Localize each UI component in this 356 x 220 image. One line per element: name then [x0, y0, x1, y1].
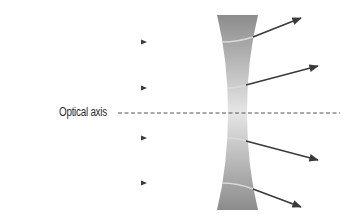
light-ray-2 [18, 66, 318, 91]
light-ray-3 [18, 136, 318, 161]
ray-arrowhead-icon [141, 136, 147, 141]
concave-lens-diagram [0, 0, 356, 220]
light-ray-1 [18, 18, 301, 45]
optical-axis-label: Optical axis [59, 104, 107, 120]
ray-arrowhead-icon [141, 86, 147, 91]
light-ray-4 [18, 181, 301, 208]
ray-arrowhead-icon [141, 40, 147, 45]
ray-arrowhead-icon [141, 181, 147, 186]
